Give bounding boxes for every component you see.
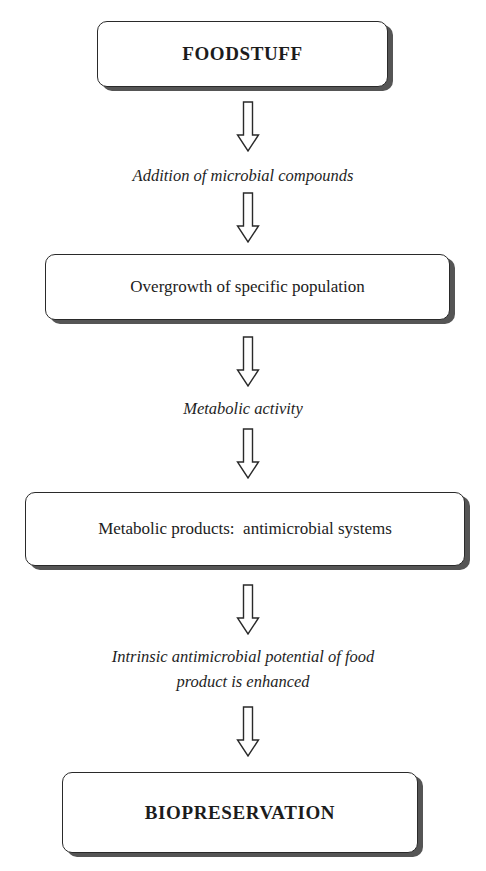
step-label: Addition of microbial compounds xyxy=(133,166,354,185)
node-overgrowth-label: Overgrowth of specific population xyxy=(130,277,364,297)
step-label-line2: product is enhanced xyxy=(0,669,486,694)
node-metabolic-products: Metabolic products: antimicrobial system… xyxy=(25,492,465,566)
down-arrow-icon xyxy=(236,584,260,636)
step-metabolic-activity: Metabolic activity xyxy=(0,396,486,421)
step-intrinsic-potential-enhanced: Intrinsic antimicrobial potential of foo… xyxy=(0,644,486,694)
step-label-line1: Intrinsic antimicrobial potential of foo… xyxy=(0,644,486,669)
node-biopreservation: BIOPRESERVATION xyxy=(62,772,418,853)
down-arrow-icon xyxy=(236,192,260,244)
down-arrow-icon xyxy=(236,101,260,153)
down-arrow-icon xyxy=(236,428,260,480)
node-biopreservation-label: BIOPRESERVATION xyxy=(145,802,335,824)
node-foodstuff-label: FOODSTUFF xyxy=(182,43,302,65)
step-addition-of-microbial-compounds: Addition of microbial compounds xyxy=(0,163,486,188)
node-foodstuff: FOODSTUFF xyxy=(97,21,388,87)
node-metabolic-products-label: Metabolic products: antimicrobial system… xyxy=(98,519,392,539)
node-overgrowth: Overgrowth of specific population xyxy=(45,254,450,320)
step-label: Metabolic activity xyxy=(183,399,303,418)
down-arrow-icon xyxy=(236,336,260,388)
down-arrow-icon xyxy=(236,706,260,758)
